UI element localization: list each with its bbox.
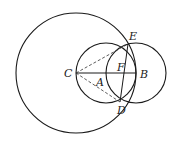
label-b: B — [139, 68, 148, 81]
label-d: D — [116, 104, 126, 117]
label-c: C — [64, 67, 73, 80]
label-e: E — [128, 30, 137, 43]
label-f: F — [116, 61, 125, 74]
geometry-diagram: C A B E D F — [0, 0, 176, 148]
label-a: A — [95, 76, 104, 89]
